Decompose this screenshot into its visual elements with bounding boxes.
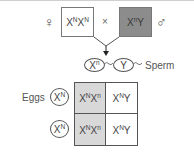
sperm-label: Sperm <box>145 60 174 71</box>
punnett-cell: XNXn <box>75 83 106 114</box>
punnett-cell: XNXn <box>75 114 106 145</box>
punnett-cell: XNY <box>106 83 137 114</box>
sperm-gamete-xn: Xn <box>84 58 105 72</box>
punnett-square: XNXn XNY XNXn XNY <box>74 82 138 146</box>
egg-gamete-1: XN <box>50 88 69 106</box>
eggs-label: Eggs <box>22 92 45 103</box>
egg-gamete-2: XN <box>50 120 69 138</box>
sperm-gamete-y: Y <box>113 58 134 72</box>
punnett-cell: XNY <box>106 114 137 145</box>
